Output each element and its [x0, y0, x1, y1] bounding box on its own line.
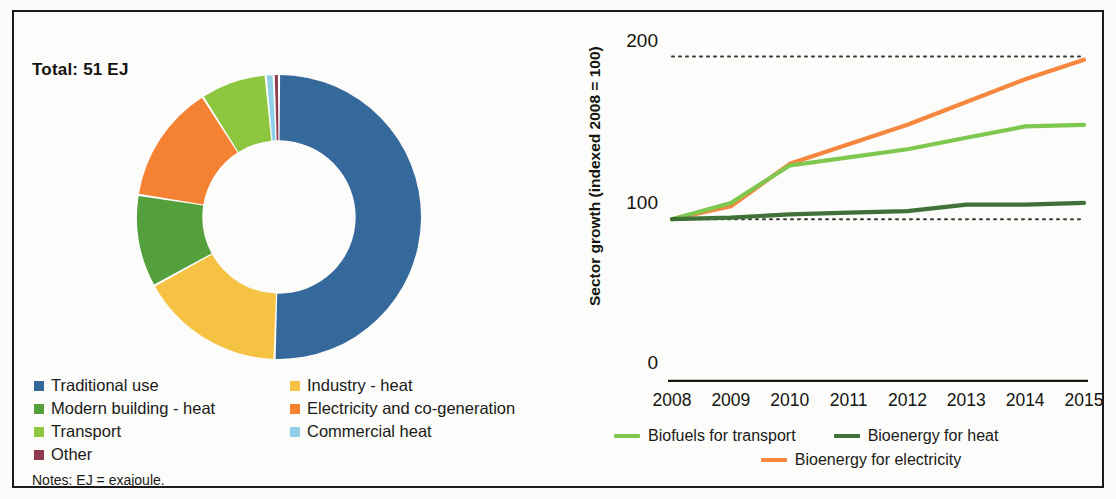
x-axis-tick: 2014: [1006, 390, 1045, 411]
x-axis-tick: 2013: [947, 390, 986, 411]
line-panel: Sector growth (indexed 2008 = 100) 200 1…: [574, 12, 1102, 486]
legend-label: Commercial heat: [307, 423, 432, 440]
y-axis-tick-200: 200: [610, 30, 658, 52]
x-axis-tick: 2010: [770, 390, 809, 411]
line-series[interactable]: [672, 60, 1084, 220]
x-axis-tick: 2012: [888, 390, 927, 411]
legend-label: Industry - heat: [307, 377, 412, 394]
line-legend: Biofuels for transport Bioenergy for hea…: [614, 424, 1102, 472]
line-legend-row-2: Bioenergy for electricity: [614, 448, 1102, 472]
legend-label: Other: [51, 446, 92, 463]
donut-chart: [134, 72, 424, 362]
line-plot-area: [668, 32, 1088, 382]
donut-slice[interactable]: [276, 75, 421, 359]
donut-slice[interactable]: [275, 75, 279, 140]
legend-label: Traditional use: [51, 377, 159, 394]
legend-label: Modern building - heat: [51, 400, 215, 417]
legend-line-icon: [614, 434, 640, 438]
legend-item-modern-building-heat[interactable]: Modern building - heat: [34, 397, 215, 420]
legend-swatch-icon: [34, 427, 44, 437]
legend-swatch-icon: [34, 404, 44, 414]
y-axis-tick-100: 100: [610, 192, 658, 214]
y-axis-tick-0: 0: [610, 352, 658, 374]
legend-label: Biofuels for transport: [648, 427, 796, 445]
legend-item-bioenergy-for-electricity[interactable]: Bioenergy for electricity: [761, 451, 961, 469]
legend-swatch-icon: [290, 427, 300, 437]
line-chart-svg: [668, 32, 1088, 382]
legend-label: Bioenergy for heat: [868, 427, 999, 445]
legend-line-icon: [761, 458, 787, 462]
legend-line-icon: [834, 434, 860, 438]
x-axis-tick: 2009: [711, 390, 750, 411]
donut-chart-svg: [134, 72, 424, 362]
line-legend-row-1: Biofuels for transport Bioenergy for hea…: [614, 424, 1102, 448]
legend-item-transport[interactable]: Transport: [34, 420, 215, 443]
legend-swatch-icon: [290, 404, 300, 414]
legend-swatch-icon: [34, 381, 44, 391]
figure-notes: Notes: EJ = exajoule.: [32, 472, 165, 488]
legend-item-traditional-use[interactable]: Traditional use: [34, 374, 215, 397]
x-axis-tick: 2015: [1065, 390, 1104, 411]
y-axis-label: Sector growth (indexed 2008 = 100): [586, 56, 604, 306]
pie-legend-column-right: Industry - heat Electricity and co-gener…: [290, 374, 515, 443]
figure-root: Total: 51 EJ Traditional use Modern buil…: [0, 0, 1116, 499]
legend-item-electricity-and-cogeneration[interactable]: Electricity and co-generation: [290, 397, 515, 420]
pie-legend-column-left: Traditional use Modern building - heat T…: [34, 374, 215, 466]
legend-item-commercial-heat[interactable]: Commercial heat: [290, 420, 515, 443]
legend-label: Transport: [51, 423, 121, 440]
legend-swatch-icon: [290, 381, 300, 391]
legend-item-bioenergy-for-heat[interactable]: Bioenergy for heat: [834, 427, 999, 445]
legend-item-biofuels-for-transport[interactable]: Biofuels for transport: [614, 427, 796, 445]
legend-swatch-icon: [34, 450, 44, 460]
legend-label: Bioenergy for electricity: [795, 451, 961, 469]
pie-total-label: Total: 51 EJ: [32, 60, 129, 80]
legend-item-industry-heat[interactable]: Industry - heat: [290, 374, 515, 397]
legend-item-other[interactable]: Other: [34, 443, 215, 466]
pie-panel: Total: 51 EJ Traditional use Modern buil…: [14, 12, 574, 486]
x-axis-tick: 2008: [653, 390, 692, 411]
line-chart: Sector growth (indexed 2008 = 100) 200 1…: [574, 12, 1102, 486]
x-axis-tick: 2011: [830, 390, 868, 411]
x-axis-ticks: 20082009201020112012201320142015: [636, 390, 1102, 416]
legend-label: Electricity and co-generation: [307, 400, 515, 417]
